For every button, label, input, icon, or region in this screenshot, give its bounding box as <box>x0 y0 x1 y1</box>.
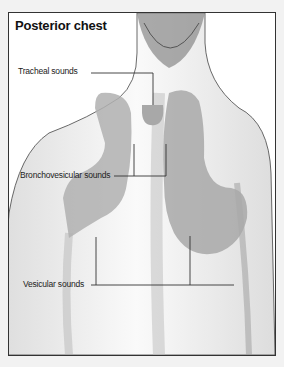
tracheal-sounds-label: Tracheal sounds <box>18 66 78 76</box>
posterior-chest-illustration <box>9 13 275 355</box>
bronchovesicular-sounds-label: Bronchovesicular sounds <box>20 170 110 180</box>
figure-title: Posterior chest <box>15 18 107 33</box>
diagram-frame: Posterior chest Tracheal sounds Bronchov… <box>8 12 276 356</box>
vesicular-sounds-label: Vesicular sounds <box>23 279 84 289</box>
